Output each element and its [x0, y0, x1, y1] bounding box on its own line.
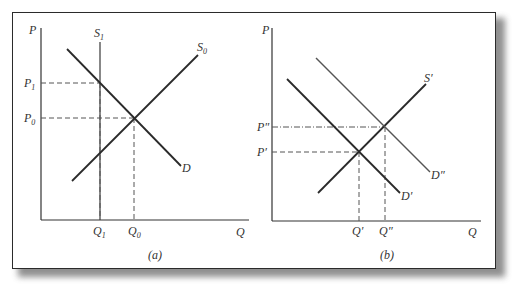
s-prime-curve [318, 84, 426, 193]
panel-a: P Q P1 P0 Q1 Q0 S1 S0 D (a) [23, 23, 249, 262]
q-single-label: Q′ [352, 224, 364, 238]
panel-b-caption: (b) [380, 248, 394, 262]
d-curve [67, 49, 181, 166]
x-axis-label-b: Q [468, 225, 477, 239]
x-axis-label-a: Q [236, 225, 245, 239]
d-double-prime-curve [316, 58, 430, 172]
supply-demand-figure: P Q P1 P0 Q1 Q0 S1 S0 D (a) [0, 0, 515, 285]
p0-label: P0 [23, 111, 35, 127]
s-prime-label: S′ [424, 71, 433, 85]
p1-label: P1 [23, 76, 35, 92]
q0-label: Q0 [128, 224, 141, 240]
q-double-label: Q″ [379, 224, 394, 238]
d-label: D [181, 161, 191, 175]
y-axis-label-a: P [28, 23, 37, 37]
q1-label: Q1 [93, 224, 106, 240]
d-prime-label: D′ [400, 189, 413, 203]
p-double-label: P″ [256, 120, 270, 134]
s0-label: S0 [197, 40, 207, 56]
p-single-label: P′ [256, 145, 267, 159]
d-double-prime-label: D″ [430, 168, 446, 182]
d-prime-curve [287, 79, 400, 193]
diagram-canvas: P Q P1 P0 Q1 Q0 S1 S0 D (a) [0, 0, 515, 285]
s1-label: S1 [94, 26, 104, 42]
panel-b: P Q P″ P′ Q′ Q″ S′ D′ D″ (b) [256, 23, 481, 262]
panel-a-caption: (a) [148, 248, 162, 262]
y-axis-label-b: P [261, 23, 270, 37]
